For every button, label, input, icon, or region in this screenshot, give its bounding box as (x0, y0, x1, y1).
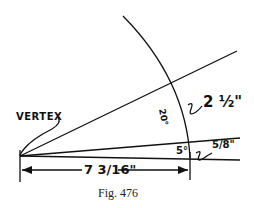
length-large-label: 2 ½" (203, 95, 242, 110)
angle-small-label: 5° (176, 146, 188, 156)
arrowhead-left (22, 166, 32, 174)
figure: VERTEX 20° 2 ½" 5° 5/8" 7 3/16" Fig. 476 (0, 0, 254, 208)
arc (123, 16, 190, 158)
arrowhead-right (178, 166, 188, 174)
vertex-label: VERTEX (16, 112, 62, 122)
angle-large-label: 20° (157, 108, 169, 126)
length-small-label: 5/8" (212, 140, 235, 150)
figure-caption: Fig. 476 (98, 186, 138, 201)
base-length-label: 7 3/16" (84, 163, 136, 176)
vertex-leader (20, 117, 59, 156)
squiggle-large (188, 104, 202, 114)
